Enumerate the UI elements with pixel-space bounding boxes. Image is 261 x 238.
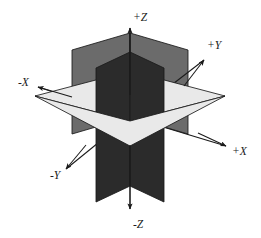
coordinate-diagram-svg: +Z -Z +Y -Y +X -X xyxy=(0,0,261,238)
axis-label-plus-x: +X xyxy=(232,145,248,157)
axis-label-plus-y: +Y xyxy=(207,39,223,51)
axis-label-minus-z: -Z xyxy=(133,218,144,230)
axis-label-minus-x: -X xyxy=(18,76,30,88)
coordinate-system-figure: +Z -Z +Y -Y +X -X xyxy=(0,0,261,238)
axis-label-minus-y: -Y xyxy=(50,169,62,181)
axis-label-plus-z: +Z xyxy=(133,11,148,23)
